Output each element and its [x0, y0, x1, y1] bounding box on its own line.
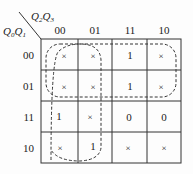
cell-11-00: 1 [56, 110, 62, 122]
cell-01-11: 1 [127, 80, 133, 92]
cell-00-00: × [61, 51, 66, 61]
cell-11-01: × [87, 112, 92, 122]
cell-10-01: 1 [90, 140, 96, 152]
cell-01-10: × [158, 82, 163, 92]
cell-11-11: 0 [126, 111, 132, 123]
row-var-label: Q0Q1 [3, 25, 26, 39]
col-var-label: Q2Q3 [31, 10, 54, 24]
col-header: 10 [159, 24, 171, 36]
cell-10-11: × [125, 143, 130, 153]
row-header: 01 [23, 80, 34, 92]
cell-01-01: × [90, 82, 95, 92]
cell-00-10: × [158, 51, 163, 61]
row-header: 11 [23, 111, 34, 123]
cell-10-00: × [57, 143, 62, 153]
col-header: 11 [125, 24, 136, 36]
cell-11-10: 0 [161, 111, 167, 123]
cell-00-01: × [90, 51, 95, 61]
col-header: 01 [90, 24, 101, 36]
col-header: 00 [55, 24, 67, 36]
cell-00-11: 1 [127, 49, 133, 61]
cell-10-10: × [161, 143, 166, 153]
cell-01-00: × [61, 82, 66, 92]
row-header: 10 [23, 142, 35, 154]
row-header: 00 [23, 49, 35, 61]
karnaugh-map: Q2Q3 Q0Q1 00 01 11 10 00 01 11 10 × × 1 … [0, 0, 193, 174]
